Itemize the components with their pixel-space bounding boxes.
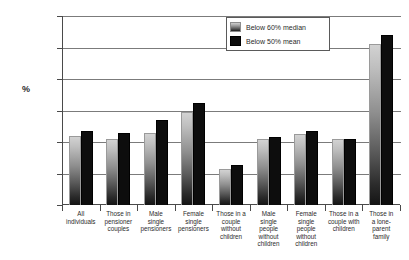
x-tick (400, 205, 401, 211)
bar-median (257, 139, 269, 205)
bar-median (219, 169, 231, 205)
bar-group (62, 16, 100, 205)
legend-swatch-mean (230, 36, 241, 46)
x-axis-label: Those inpensionercouples (100, 210, 138, 248)
bar-median (181, 112, 193, 205)
bar-median (332, 139, 344, 205)
legend-swatch-median (230, 22, 241, 32)
bar-group (363, 16, 401, 205)
bar-median (369, 44, 381, 205)
bar-chart: % 0102030405060 AllindividualsThose inpe… (0, 0, 409, 260)
bar-mean (81, 131, 93, 205)
x-axis-label: Those in acouplewithoutchildren (212, 210, 250, 248)
bar-group (325, 16, 363, 205)
bar-mean (231, 165, 243, 205)
legend-item-median: Below 60% median (230, 21, 325, 33)
legend-label-mean: Below 50% mean (246, 38, 300, 45)
bar-median (144, 133, 156, 205)
x-axis-label: Malesinglepeoplewithoutchildren (250, 210, 288, 248)
bar-median (106, 139, 118, 205)
bar-mean (269, 137, 281, 205)
bar-mean (193, 103, 205, 205)
x-axis-label: Those ina lone-parentfamily (363, 210, 401, 248)
x-axis-label: Allindividuals (62, 210, 100, 248)
bar-group (100, 16, 138, 205)
y-axis-label: % (22, 84, 30, 94)
x-axis-label: Femalesinglepeoplewithoutchildren (287, 210, 325, 248)
bar-mean (118, 133, 130, 205)
chart-legend: Below 60% median Below 50% mean (226, 17, 330, 51)
x-axis-label: Those in acouple withchildren (325, 210, 363, 248)
bar-mean (306, 131, 318, 205)
x-axis-label: Femalesinglepensioners (175, 210, 213, 248)
x-axis-labels: AllindividualsThose inpensionercouplesMa… (62, 210, 400, 248)
legend-label-median: Below 60% median (246, 24, 306, 31)
bar-median (69, 136, 81, 205)
bar-group (137, 16, 175, 205)
legend-item-mean: Below 50% mean (230, 35, 325, 47)
bar-mean (344, 139, 356, 205)
bar-mean (156, 120, 168, 205)
bar-mean (381, 35, 393, 205)
bar-median (294, 134, 306, 205)
x-axis-label: Malesinglepensioners (137, 210, 175, 248)
bar-group (175, 16, 213, 205)
